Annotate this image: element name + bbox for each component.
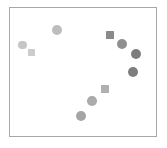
scatter-point-circle-9 — [87, 96, 97, 106]
scatter-plot-figure — [0, 0, 167, 148]
scatter-point-square-8 — [101, 85, 109, 93]
scatter-point-circle-5 — [117, 39, 128, 50]
scatter-point-circle-7 — [128, 67, 139, 78]
scatter-point-circle-3 — [52, 25, 62, 35]
scatter-point-circle-6 — [131, 49, 142, 60]
plot-area — [10, 8, 156, 136]
scatter-point-circle-1 — [18, 41, 27, 50]
scatter-point-circle-10 — [76, 111, 86, 121]
scatter-point-square-4 — [106, 31, 114, 39]
plot-frame — [9, 7, 157, 137]
scatter-point-square-2 — [28, 49, 35, 56]
